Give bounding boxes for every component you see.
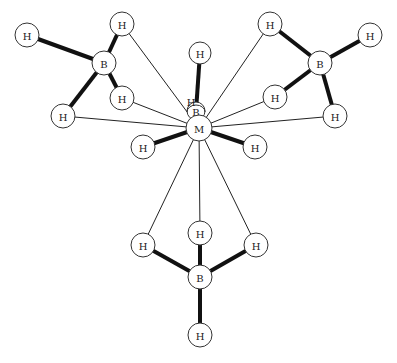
atom-H2d: H bbox=[323, 104, 347, 128]
atom-B3-label: B bbox=[196, 273, 203, 284]
atom-H1d-label: H bbox=[59, 112, 68, 123]
atom-B2: B bbox=[308, 51, 332, 75]
atom-H3d: H bbox=[188, 323, 212, 347]
atom-H1a-label: H bbox=[23, 31, 32, 42]
atom-metal-center-label: M bbox=[194, 124, 204, 135]
atom-H3a: H bbox=[131, 233, 155, 257]
atom-H2b-label: H bbox=[366, 31, 375, 42]
atom-H2c-label: H bbox=[271, 93, 280, 104]
bond-thin-M-H3b bbox=[199, 128, 200, 233]
atom-H_right: H bbox=[243, 135, 267, 159]
atom-H_top: H bbox=[189, 42, 211, 64]
atom-H1d: H bbox=[51, 104, 75, 128]
bond-thin-M-H1d bbox=[63, 116, 199, 128]
atom-B1: B bbox=[92, 51, 116, 75]
atom-H3a-label: H bbox=[139, 241, 148, 252]
atom-H1c-label: H bbox=[118, 94, 127, 105]
bond-thin-M-H2a bbox=[199, 24, 270, 128]
atom-metal-center: M bbox=[186, 115, 212, 141]
atom-H_left-label: H bbox=[139, 143, 148, 154]
atom-H3c-label: H bbox=[252, 241, 261, 252]
atom-H_right-label: H bbox=[251, 143, 260, 154]
atom-H3c: H bbox=[244, 233, 268, 257]
atom-H1a: H bbox=[15, 23, 39, 47]
atom-H1c: H bbox=[110, 86, 134, 110]
atom-B3: B bbox=[188, 265, 212, 289]
atom-H3b: H bbox=[188, 221, 212, 245]
atom-H_top-label: H bbox=[196, 49, 205, 60]
atom-H3b-label: H bbox=[196, 229, 205, 240]
atom-H2a-label: H bbox=[266, 20, 275, 31]
atom-H3d-label: H bbox=[196, 331, 205, 342]
bond-thin-M-H2d bbox=[199, 116, 335, 128]
atom-H2c: H bbox=[263, 85, 287, 109]
atom-H_left: H bbox=[131, 135, 155, 159]
atom-H2d-label: H bbox=[331, 112, 340, 123]
atom-H2a: H bbox=[258, 12, 282, 36]
atom-H2b: H bbox=[358, 23, 382, 47]
molecular-diagram: BH HBHHHHBHHHHHHBHHHHM bbox=[0, 0, 397, 363]
atom-label-hydrogen-hidden: H bbox=[187, 97, 196, 108]
atom-H1b: H bbox=[110, 12, 134, 36]
atom-B1-label: B bbox=[100, 59, 107, 70]
atom-H1b-label: H bbox=[118, 20, 127, 31]
atom-B2-label: B bbox=[316, 59, 323, 70]
